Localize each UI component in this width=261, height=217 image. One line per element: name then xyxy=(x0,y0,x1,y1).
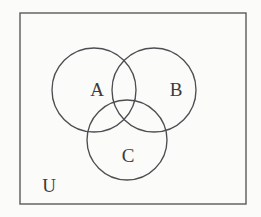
universal-set-label: U xyxy=(42,175,56,196)
set-label-c: C xyxy=(122,145,135,166)
venn-diagram-figure: A B C U xyxy=(0,0,261,217)
venn-diagram-canvas: A B C U xyxy=(0,0,261,217)
set-circle-c xyxy=(87,100,167,180)
set-circle-b xyxy=(112,48,196,132)
set-label-b: B xyxy=(170,79,183,100)
set-label-a: A xyxy=(90,79,104,100)
